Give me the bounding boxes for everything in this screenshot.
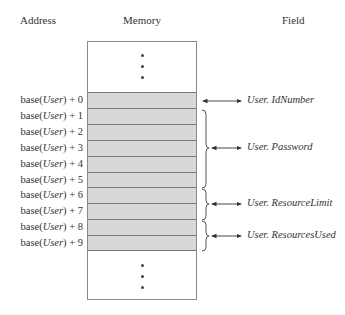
field-label-resourcelimit: User. ResourceLimit [247,197,332,208]
field-label-password: User. Password [247,141,313,152]
brace-icon [202,221,209,251]
annotation-layer [0,0,345,315]
brace-icon [202,189,209,220]
field-label-idnumber: User. IdNumber [247,94,314,105]
field-label-resourcesused: User. ResourcesUsed [247,229,336,240]
brace-icon [202,110,209,188]
